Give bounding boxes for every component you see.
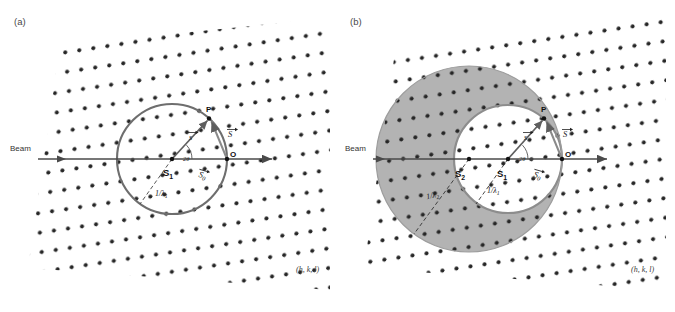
ewald-sphere-figure: (a) Beam O P S1 2θ 1/λ1 (0, 0, 675, 312)
reflection-dot-b (542, 116, 546, 120)
panel-a: (a) Beam O P S1 2θ 1/λ1 (10, 12, 338, 294)
panel-b-label: (b) (350, 16, 362, 27)
two-theta-label-b: 2θ (519, 155, 526, 162)
origin-label-b: O (565, 150, 571, 159)
sphere-center-dot-s2-b (467, 157, 471, 161)
reflection-label-a: P (206, 105, 212, 114)
two-theta-label-a: 2θ (183, 155, 190, 162)
origin-dot-a (225, 157, 229, 161)
reflection-dot-a (207, 116, 211, 120)
hkl-label-a: (h, k, l) (296, 265, 319, 274)
beam-label-a: Beam (10, 144, 31, 153)
sphere-center-dot-a (170, 157, 174, 161)
figure-canvas: (a) Beam O P S1 2θ 1/λ1 (0, 0, 675, 312)
beam-label-b: Beam (345, 144, 366, 153)
origin-dot-b (560, 157, 564, 161)
hkl-label-b: (h, k, l) (631, 265, 654, 274)
origin-label-a: O (230, 150, 236, 159)
panel-a-label: (a) (14, 16, 26, 27)
reflection-label-b: P (541, 105, 547, 114)
sphere-center-dot-s1-b (506, 157, 510, 161)
